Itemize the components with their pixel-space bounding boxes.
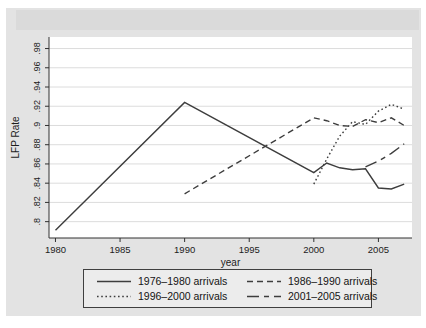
y-tick-label: .98 — [32, 42, 42, 55]
legend-label: 1996–2000 arrivals — [138, 290, 227, 302]
x-tick-label: 2005 — [368, 244, 389, 255]
longdash-shortdash-line-swatch-icon — [246, 292, 282, 301]
y-tick-label: .94 — [32, 81, 42, 94]
legend-label: 1986–1990 arrivals — [288, 275, 377, 287]
solid-line-swatch-icon — [96, 277, 132, 286]
lfp-rate-figure: .8.82.84.86.88.9.92.94.96.98198019851990… — [6, 8, 421, 316]
y-tick-label: .9 — [32, 122, 42, 130]
y-axis-title: LFP Rate — [10, 116, 21, 158]
y-tick-label: .8 — [32, 218, 42, 226]
legend-label: 2001–2005 arrivals — [288, 290, 377, 302]
chart-legend: 1976–1980 arrivals 1986–1990 arrivals 19… — [83, 269, 372, 308]
y-tick-label: .88 — [32, 138, 42, 151]
y-tick-label: .84 — [32, 177, 42, 190]
y-tick-label: .96 — [32, 62, 42, 75]
legend-item-1976-1980: 1976–1980 arrivals — [96, 275, 246, 287]
y-tick-label: .86 — [32, 158, 42, 171]
legend-item-2001-2005: 2001–2005 arrivals — [246, 290, 377, 302]
x-axis-title: year — [221, 257, 241, 268]
dashed-line-swatch-icon — [246, 277, 282, 286]
x-tick-label: 1980 — [45, 244, 66, 255]
x-tick-label: 1990 — [174, 244, 195, 255]
x-tick-label: 1995 — [239, 244, 260, 255]
legend-label: 1976–1980 arrivals — [138, 275, 227, 287]
x-tick-label: 2000 — [303, 244, 324, 255]
plot-area — [49, 37, 412, 238]
x-tick-label: 1985 — [109, 244, 130, 255]
y-tick-label: .82 — [32, 196, 42, 209]
dotted-line-swatch-icon — [96, 292, 132, 301]
legend-item-1986-1990: 1986–1990 arrivals — [246, 275, 377, 287]
legend-item-1996-2000: 1996–2000 arrivals — [96, 290, 246, 302]
y-tick-label: .92 — [32, 100, 42, 113]
